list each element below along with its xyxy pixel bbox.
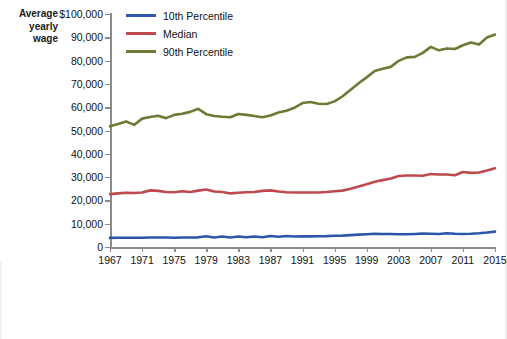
y-axis-caption: Average yearly wage: [2, 8, 58, 46]
x-tick-mark: [367, 247, 368, 252]
x-tick-label: 1979: [195, 254, 218, 266]
line-swatch-icon: [126, 32, 156, 36]
y-tick-label: 30,000: [71, 171, 103, 183]
x-tick-mark: [303, 247, 304, 252]
x-tick-mark: [399, 247, 400, 252]
x-tick-mark: [206, 247, 207, 252]
y-tick-label: 10,000: [71, 218, 103, 230]
x-tick-label: 1991: [291, 254, 314, 266]
x-tick-label: 1967: [98, 254, 121, 266]
x-tick-mark: [270, 247, 271, 252]
x-tick-mark: [174, 247, 175, 252]
y-tick-label: 60,000: [71, 101, 103, 113]
x-tick-mark: [110, 247, 111, 252]
y-tick-label: 70,000: [71, 78, 103, 90]
x-tick-label: 2015: [483, 254, 506, 266]
y-axis-caption-line-2: yearly: [2, 21, 58, 34]
x-tick-mark: [335, 247, 336, 252]
x-tick-mark: [463, 247, 464, 252]
y-axis-caption-line-1: Average: [2, 8, 58, 21]
x-tick-mark: [142, 247, 143, 252]
chart-page: Average yearly wage 010,00020,00030,0004…: [0, 0, 507, 339]
legend-item-label: Median: [163, 28, 197, 40]
x-tick-mark: [238, 247, 239, 252]
line-swatch-icon: [126, 50, 156, 54]
x-tick-label: 1971: [130, 254, 153, 266]
legend-item[interactable]: Median: [126, 27, 233, 40]
legend-item[interactable]: 10th Percentile: [126, 9, 233, 22]
y-tick-label: 0: [97, 241, 103, 253]
legend-item[interactable]: 90th Percentile: [126, 45, 233, 58]
x-tick-label: 2011: [452, 254, 475, 266]
y-axis-caption-line-3: wage: [2, 33, 58, 46]
x-tick-label: 1983: [227, 254, 250, 266]
x-tick-mark: [431, 247, 432, 252]
scan-edge-left: [0, 262, 2, 339]
x-tick-label: 2003: [387, 254, 410, 266]
y-tick-label: 50,000: [71, 125, 103, 137]
legend-item-label: 90th Percentile: [163, 46, 233, 58]
y-tick-label: 90,000: [71, 31, 103, 43]
x-tick-label: 1995: [323, 254, 346, 266]
x-tick-label: 2007: [419, 254, 442, 266]
x-tick-label: 1987: [259, 254, 282, 266]
chart-legend: 10th PercentileMedian90th Percentile: [126, 9, 233, 58]
y-tick-label: 40,000: [71, 148, 103, 160]
series-line: [110, 232, 495, 238]
x-tick-mark: [495, 247, 496, 252]
series-line: [110, 168, 495, 194]
legend-item-label: 10th Percentile: [163, 10, 233, 22]
line-swatch-icon: [126, 14, 156, 18]
x-tick-label: 1975: [162, 254, 185, 266]
y-tick-label: $100,000: [59, 8, 103, 20]
y-tick-label: 20,000: [71, 194, 103, 206]
x-tick-label: 1999: [355, 254, 378, 266]
y-tick-label: 80,000: [71, 55, 103, 67]
